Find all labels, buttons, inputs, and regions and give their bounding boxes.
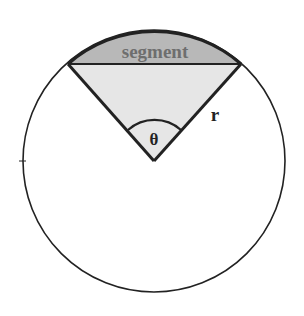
circle-segment-diagram: segment r θ bbox=[0, 0, 304, 316]
radius-label: r bbox=[211, 104, 220, 125]
segment-label: segment bbox=[122, 41, 189, 62]
angle-label: θ bbox=[150, 130, 159, 149]
